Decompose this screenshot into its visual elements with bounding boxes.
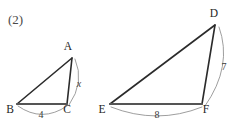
vertex-label-e: E [98,103,105,115]
side-length-df: 7 [222,61,227,72]
vertex-label-d: D [210,7,218,19]
triangle-def-group: D E F 8 7 [98,7,226,120]
side-length-ef: 8 [155,109,160,120]
figure-canvas: (2) A B C 4 x [0,0,240,128]
problem-number-label: (2) [8,12,23,27]
vertex-label-a: A [64,40,73,52]
triangle-abc-group: A B C 4 x [6,40,82,120]
side-length-bc: 4 [39,109,44,120]
geometry-figure: (2) A B C 4 x [0,0,240,128]
segment-ac [67,58,72,104]
side-length-ac-unknown: x [76,78,82,89]
segment-ab [17,58,72,104]
segment-de [110,25,215,104]
vertex-label-c: C [63,103,71,115]
vertex-label-b: B [6,103,14,115]
vertex-label-f: F [203,103,209,115]
